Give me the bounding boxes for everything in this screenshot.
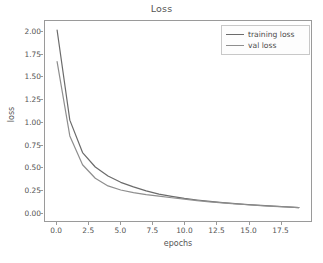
y-tick-label: 1.75 — [7, 49, 41, 58]
y-tick-label: 0.25 — [7, 186, 41, 195]
series-line — [57, 30, 299, 208]
x-tick-mark — [88, 222, 89, 225]
x-tick-mark — [249, 222, 250, 225]
y-tick-mark — [40, 190, 43, 191]
chart-legend: training loss val loss — [221, 25, 310, 55]
y-tick-mark — [40, 213, 43, 214]
series-line — [57, 62, 299, 208]
x-tick-mark — [120, 222, 121, 225]
legend-item-label: val loss — [248, 40, 276, 51]
y-tick-label: 0.50 — [7, 163, 41, 172]
legend-item-label: training loss — [248, 29, 295, 40]
x-tick-mark — [281, 222, 282, 225]
legend-line-icon — [226, 31, 244, 38]
x-tick-label: 17.5 — [261, 226, 301, 235]
x-axis-label: epochs — [44, 239, 312, 248]
x-tick-mark — [152, 222, 153, 225]
y-tick-mark — [40, 145, 43, 146]
legend-item: training loss — [226, 29, 304, 40]
x-tick-mark — [184, 222, 185, 225]
legend-line-icon — [226, 42, 244, 49]
y-tick-label: 1.50 — [7, 72, 41, 81]
y-tick-mark — [40, 122, 43, 123]
y-tick-mark — [40, 76, 43, 77]
series-paths — [57, 30, 299, 208]
y-tick-mark — [40, 54, 43, 55]
y-tick-mark — [40, 99, 43, 100]
y-tick-mark — [40, 31, 43, 32]
y-tick-label: 0.00 — [7, 208, 41, 217]
y-axis-label: loss — [7, 95, 16, 135]
legend-item: val loss — [226, 40, 304, 51]
y-tick-mark — [40, 167, 43, 168]
x-tick-mark — [216, 222, 217, 225]
chart-title: Loss — [0, 3, 323, 14]
matplotlib-figure: Loss 0.000.250.500.751.001.251.501.752.0… — [0, 0, 323, 263]
x-tick-mark — [56, 222, 57, 225]
y-tick-label: 0.75 — [7, 140, 41, 149]
y-tick-label: 2.00 — [7, 26, 41, 35]
